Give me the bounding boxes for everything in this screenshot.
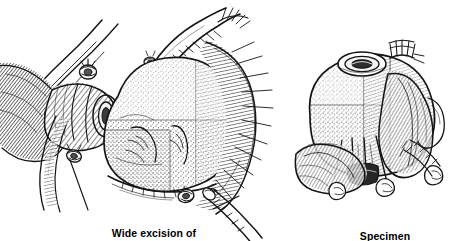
stump-center — [376, 179, 394, 197]
caption-right-line1: Specimen — [330, 230, 440, 241]
caption-left-line1: Wide excision of — [95, 227, 213, 239]
caption-specimen: Specimen (posterior view) — [330, 205, 440, 241]
surgical-clip-upper — [80, 59, 97, 79]
leader-line-left — [70, 160, 88, 210]
excised-specimen-panel — [290, 20, 471, 210]
bladder-neck-opening — [338, 52, 386, 76]
stump-left — [329, 182, 346, 199]
caption-wide-excision: Wide excision of left neurovascular bund… — [95, 202, 213, 241]
illustration-canvas: Wide excision of left neurovascular bund… — [0, 0, 471, 241]
